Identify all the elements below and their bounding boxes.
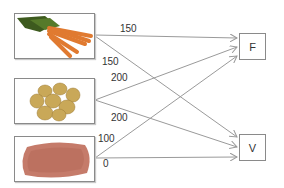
carrots-image [14,13,95,59]
potatoes-icon [15,79,95,124]
node-f: F [239,33,266,60]
edge-label-carrots-f: 150 [120,23,137,34]
potatoes-image [14,78,95,124]
node-v: V [239,134,266,161]
edge-label-meat-f: 100 [98,133,115,144]
node-f-label: F [249,41,256,53]
ground-meat-icon [15,137,95,182]
carrots-icon [15,14,95,59]
node-v-label: V [249,142,256,154]
edge-carrots-f [95,35,237,38]
edge-label-potatoes-v: 200 [111,112,128,123]
ground-meat-image [14,136,95,182]
edge-label-potatoes-f: 200 [111,72,128,83]
edge-meat-v [95,157,237,158]
edge-label-carrots-v: 150 [102,56,119,67]
edge-label-meat-v: 0 [103,158,109,169]
